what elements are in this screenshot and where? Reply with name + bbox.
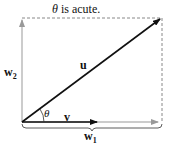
caption-text: is acute.	[58, 2, 100, 16]
vector-projection-diagram: θ is acute. u v θ w2 w1	[0, 0, 170, 146]
diagram-graphics	[0, 0, 170, 146]
diagram-caption: θ is acute.	[52, 3, 100, 15]
w2-text: w	[4, 65, 13, 79]
label-w2: w2	[4, 66, 17, 81]
label-v: v	[64, 111, 70, 123]
w2-subscript: 2	[13, 72, 17, 81]
label-u: u	[80, 59, 87, 71]
label-w1: w1	[84, 130, 97, 145]
w1-subscript: 1	[93, 136, 97, 145]
label-theta: θ	[44, 108, 49, 119]
u-vector	[22, 19, 160, 122]
w1-text: w	[84, 129, 93, 143]
